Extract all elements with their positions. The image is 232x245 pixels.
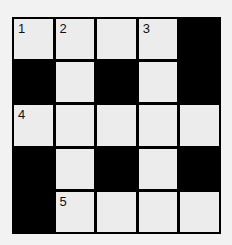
crossword-cell[interactable] <box>139 105 178 145</box>
crossword-cell[interactable] <box>56 62 95 102</box>
crossword-cell[interactable]: 4 <box>14 105 53 145</box>
black-cell <box>180 149 219 189</box>
black-cell <box>180 62 219 102</box>
crossword-cell[interactable]: 2 <box>56 19 95 59</box>
crossword-cell[interactable] <box>139 62 178 102</box>
clue-number: 2 <box>60 22 67 35</box>
black-cell <box>14 192 53 232</box>
black-cell <box>180 19 219 59</box>
black-cell <box>14 62 53 102</box>
clue-number: 5 <box>60 195 67 208</box>
black-cell <box>97 149 136 189</box>
crossword-cell[interactable]: 3 <box>139 19 178 59</box>
crossword-cell[interactable] <box>56 105 95 145</box>
black-cell <box>14 149 53 189</box>
crossword-cell[interactable] <box>97 192 136 232</box>
crossword-cell[interactable] <box>56 149 95 189</box>
clue-number: 3 <box>143 22 150 35</box>
crossword-grid: 12345 <box>12 17 221 234</box>
crossword-cell[interactable] <box>97 105 136 145</box>
crossword-cell[interactable] <box>97 19 136 59</box>
crossword-cell[interactable] <box>180 192 219 232</box>
clue-number: 1 <box>18 22 25 35</box>
crossword-cell[interactable] <box>180 105 219 145</box>
crossword-cell[interactable]: 1 <box>14 19 53 59</box>
clue-number: 4 <box>18 108 25 121</box>
crossword-cell[interactable] <box>139 192 178 232</box>
black-cell <box>97 62 136 102</box>
crossword-cell[interactable]: 5 <box>56 192 95 232</box>
crossword-cell[interactable] <box>139 149 178 189</box>
